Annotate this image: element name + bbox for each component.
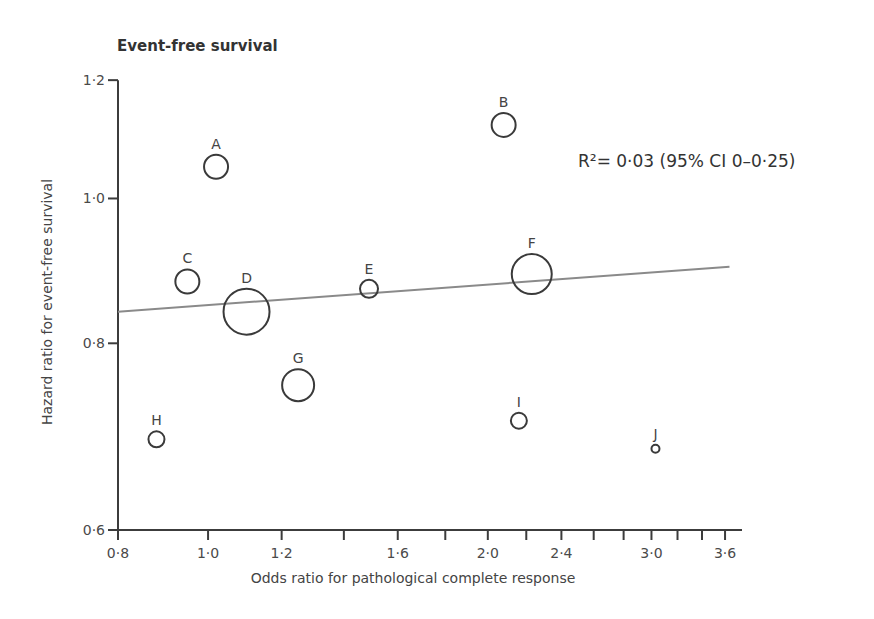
point-label: I [517,394,521,410]
x-axis: 0·81·01·21·62·02·43·03·6 [107,530,742,561]
r-squared-annotation: R²= 0·03 (95% CI 0–0·25) [578,151,795,171]
x-axis-label: Odds ratio for pathological complete res… [251,570,576,586]
data-point-e [360,280,378,298]
data-point-c [175,269,199,293]
x-tick-label: 1·6 [387,545,409,561]
x-tick-label: 0·8 [107,545,129,561]
x-tick-label: 2·0 [477,545,499,561]
point-label: C [182,250,192,266]
point-label: A [211,136,221,152]
data-point-j [651,445,659,453]
scatter-chart: Event-free survival 0·60·81·01·2 0·81·01… [0,0,874,619]
data-point-a [204,155,228,179]
data-point-h [148,431,164,447]
x-tick-label: 3·0 [640,545,662,561]
point-label: B [499,94,509,110]
point-label: G [293,350,304,366]
data-points: ABCDEFGHIJ [148,94,659,453]
data-point-d [224,289,270,335]
y-tick-label: 0·6 [83,522,105,538]
y-axis-label: Hazard ratio for event-free survival [39,179,55,425]
x-tick-label: 2·4 [550,545,572,561]
point-label: E [365,261,374,277]
data-point-f [512,254,552,294]
y-tick-label: 1·2 [83,72,105,88]
y-tick-label: 1·0 [83,190,105,206]
chart-title: Event-free survival [117,37,278,55]
y-axis: 0·60·81·01·2 [83,72,118,538]
data-point-g [282,369,314,401]
point-label: H [151,412,162,428]
regression-line [118,267,730,312]
data-point-b [492,113,516,137]
point-label: F [528,235,536,251]
x-tick-label: 1·0 [197,545,219,561]
data-point-i [511,413,527,429]
point-label: D [241,270,252,286]
y-tick-label: 0·8 [83,335,105,351]
x-tick-label: 1·2 [271,545,293,561]
point-label: J [652,426,657,442]
x-tick-label: 3·6 [714,545,736,561]
